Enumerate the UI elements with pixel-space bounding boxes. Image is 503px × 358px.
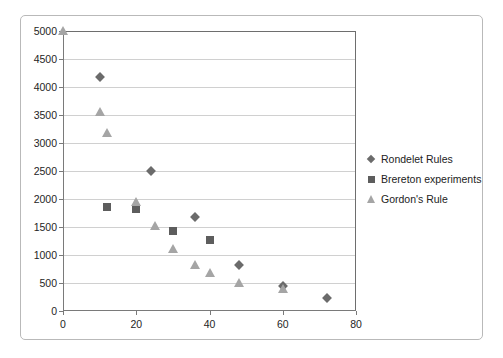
data-point [278, 284, 288, 293]
plot-top-border [63, 31, 356, 32]
x-tick-label: 20 [130, 318, 142, 330]
data-point [102, 129, 112, 138]
gridline [63, 283, 356, 284]
gridline [63, 59, 356, 60]
chart-legend: Rondelet RulesBrereton experimentsGordon… [366, 149, 484, 209]
y-tick-label: 4500 [34, 53, 57, 65]
legend-item[interactable]: Gordon's Rule [366, 189, 484, 209]
x-tick-label: 80 [350, 318, 362, 330]
data-point [190, 212, 200, 222]
data-point [168, 244, 178, 253]
y-tick-label: 1000 [34, 249, 57, 261]
y-tick-label: 5000 [34, 25, 57, 37]
gridline [63, 115, 356, 116]
legend-item[interactable]: Rondelet Rules [366, 149, 484, 169]
x-tick-label: 60 [277, 318, 289, 330]
data-point [95, 73, 105, 83]
x-tick-mark [136, 311, 137, 315]
gridline [63, 87, 356, 88]
x-tick-mark [283, 311, 284, 315]
data-point [132, 205, 140, 213]
data-point [169, 227, 177, 235]
legend-item-label: Gordon's Rule [381, 193, 448, 205]
data-point [131, 197, 141, 206]
legend-item[interactable]: Brereton experiments [366, 169, 484, 189]
data-point [58, 26, 68, 35]
gridline [63, 199, 356, 200]
square-marker-icon [366, 176, 376, 183]
legend-item-label: Rondelet Rules [381, 153, 453, 165]
chart-figure: 0500100015002000250030003500400045005000… [20, 15, 483, 340]
y-tick-label: 3000 [34, 137, 57, 149]
x-axis-line [63, 310, 356, 311]
data-point [206, 236, 214, 244]
gridline [63, 227, 356, 228]
diamond-marker-icon [366, 156, 376, 162]
y-tick-label: 4000 [34, 81, 57, 93]
y-tick-label: 1500 [34, 221, 57, 233]
data-point [103, 203, 111, 211]
x-tick-label: 0 [60, 318, 66, 330]
gridline [63, 143, 356, 144]
data-point [234, 260, 244, 270]
legend-item-label: Brereton experiments [381, 173, 481, 185]
data-point [205, 269, 215, 278]
data-point [95, 107, 105, 116]
plot-right-border [355, 31, 356, 311]
data-point [150, 221, 160, 230]
triangle-marker-icon [366, 195, 376, 203]
y-tick-label: 2500 [34, 165, 57, 177]
data-point [146, 166, 156, 176]
x-tick-mark [210, 311, 211, 315]
plot-area: 0500100015002000250030003500400045005000… [63, 31, 356, 311]
x-tick-mark [63, 311, 64, 315]
y-tick-label: 500 [39, 277, 57, 289]
y-tick-label: 0 [51, 305, 57, 317]
x-tick-label: 40 [204, 318, 216, 330]
y-tick-label: 2000 [34, 193, 57, 205]
data-point [190, 260, 200, 269]
x-tick-mark [356, 311, 357, 315]
y-tick-label: 3500 [34, 109, 57, 121]
data-point [322, 293, 332, 303]
gridline [63, 171, 356, 172]
gridline [63, 255, 356, 256]
data-point [234, 278, 244, 287]
y-axis-line [63, 31, 64, 311]
